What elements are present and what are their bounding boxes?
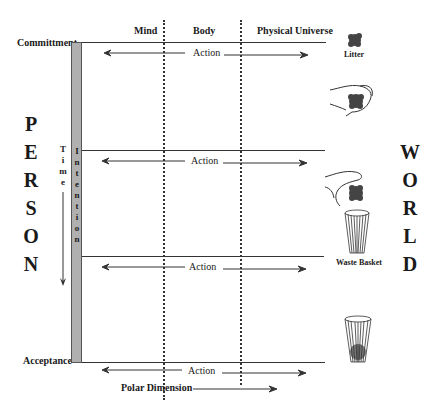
waste-basket-full-icon — [0, 0, 438, 413]
